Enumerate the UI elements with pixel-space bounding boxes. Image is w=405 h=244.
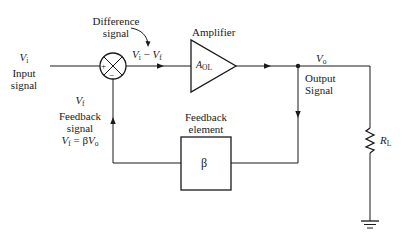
arrow-icon [295, 111, 300, 118]
difference-expression: Vi − Vf [132, 48, 162, 64]
feedback-signal-label: Vf Feedback signal Vf = βVo [55, 94, 105, 150]
beta-symbol: β [201, 157, 207, 169]
load-resistor-icon [366, 128, 374, 153]
input-line2: signal [2, 79, 46, 91]
output-node-dot [296, 64, 300, 68]
amplifier-gain: AOL [196, 59, 212, 74]
feedback-eq-rhs: V [88, 134, 95, 146]
load-subscript: L [387, 139, 392, 148]
feedback-subscript: f [82, 99, 85, 108]
arrow-icon [157, 63, 164, 68]
output-subscript: o [323, 57, 327, 66]
ground-icon [361, 221, 379, 228]
amplifier-label: Amplifier [192, 26, 235, 38]
output-symbol: V [316, 52, 323, 64]
feedback-line1: Feedback [55, 110, 105, 122]
difference-line2: signal [86, 27, 146, 39]
load-symbol: R [380, 134, 387, 146]
minus-sign: − [109, 69, 114, 81]
difference-label: Difference signal [86, 15, 146, 39]
input-label: Vi Input signal [2, 51, 46, 91]
load-resistor-label: RL [380, 134, 391, 150]
feedback-line2: signal [55, 122, 105, 134]
feedback-element-label: Feedback element [176, 111, 236, 135]
output-symbol-label: Vo [316, 52, 326, 68]
arrow-icon [110, 117, 115, 124]
output-signal-label: Output Signal [305, 72, 336, 96]
gain-subscript: OL [202, 63, 212, 72]
arrow-icon [146, 41, 151, 47]
input-line1: Input [2, 67, 46, 79]
difference-line1: Difference [86, 15, 146, 27]
feedback-element-line1: Feedback [176, 111, 236, 123]
diff-expr-op: − [141, 48, 153, 60]
plus-sign: + [101, 60, 106, 72]
feedback-eq-rhs-sub: o [95, 139, 99, 148]
output-line2: Signal [305, 84, 336, 96]
output-line1: Output [305, 72, 336, 84]
arrow-icon [264, 63, 271, 68]
diff-expr-a: V [132, 48, 139, 60]
input-subscript: i [26, 56, 28, 65]
feedback-element-line2: element [176, 123, 236, 135]
feedback-eq-mid: = β [71, 134, 88, 146]
diff-expr-b-sub: f [159, 53, 162, 62]
